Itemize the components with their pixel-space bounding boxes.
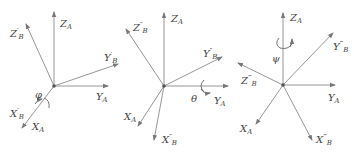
label-ya-1: YA [96, 92, 108, 104]
label-yb-1: Y′B [104, 52, 117, 65]
label-xb-1: X′B [10, 108, 24, 121]
label-xb-2: X″B [162, 134, 177, 147]
label-za-3: ZA [290, 13, 302, 25]
origin-2 [162, 84, 166, 88]
rotation-arc-psi [277, 38, 292, 49]
label-za-2: ZA [171, 14, 183, 26]
label-zb-3: Z‴B [241, 75, 257, 88]
yb-axis-3 [283, 33, 333, 85]
label-rotation-phi: φ [35, 90, 42, 100]
zb-axis-2 [126, 29, 164, 86]
yb-axis-1 [54, 64, 118, 86]
label-xa-3: XA [240, 124, 252, 136]
yb-axis-2 [164, 57, 222, 86]
label-ya-2: YA [214, 96, 226, 108]
label-zb-2: Z″B [133, 22, 148, 35]
zb-axis-1 [26, 24, 54, 86]
label-xb-3: X‴B [316, 134, 332, 147]
label-xa-1: XA [32, 122, 44, 134]
label-zb-1: Z′B [10, 28, 24, 41]
label-xa-2: XA [124, 112, 136, 124]
origin-1 [52, 84, 56, 88]
label-rotation-theta: θ [191, 94, 197, 104]
label-yb-3: Y‴B [333, 41, 348, 54]
euler-rotation-figure: ZA Z′B Y′B YA φ X′B XA ZA Z″B Y″B θ YA X… [0, 0, 354, 158]
label-rotation-psi: ψ [272, 54, 280, 64]
xb-axis-3 [283, 85, 312, 140]
origin-3 [281, 83, 285, 87]
label-ya-3: YA [328, 93, 340, 105]
label-za-1: ZA [60, 19, 72, 31]
label-yb-2: Y″B [203, 48, 217, 61]
xa-axis-3 [256, 85, 283, 124]
rotation-arc-phi [44, 98, 49, 108]
